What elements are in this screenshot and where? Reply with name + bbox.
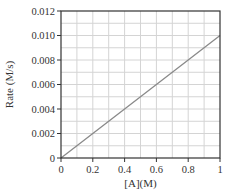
y-tick-label: 0.002 [31, 128, 55, 139]
grid-lines [61, 11, 220, 158]
x-axis-label: [A](M) [124, 177, 157, 190]
y-tick-label: 0.010 [31, 30, 55, 41]
rate-vs-concentration-chart: 00.0020.0040.0060.0080.0100.012 00.20.40… [0, 0, 228, 194]
x-axis-ticks: 00.20.40.60.81 [58, 158, 222, 175]
y-tick-label: 0 [50, 153, 55, 164]
x-tick-label: 0.2 [86, 164, 99, 175]
y-tick-label: 0.006 [31, 79, 55, 90]
x-tick-label: 0.8 [182, 164, 195, 175]
x-tick-label: 0.6 [150, 164, 163, 175]
x-tick-label: 0.4 [118, 164, 132, 175]
x-tick-label: 0 [58, 164, 63, 175]
y-axis-label: Rate (M/s) [3, 60, 16, 108]
y-tick-label: 0.004 [31, 104, 55, 115]
x-tick-label: 1 [217, 164, 222, 175]
y-tick-label: 0.012 [31, 6, 55, 17]
y-axis-ticks: 00.0020.0040.0060.0080.0100.012 [31, 6, 61, 164]
y-tick-label: 0.008 [31, 55, 55, 66]
